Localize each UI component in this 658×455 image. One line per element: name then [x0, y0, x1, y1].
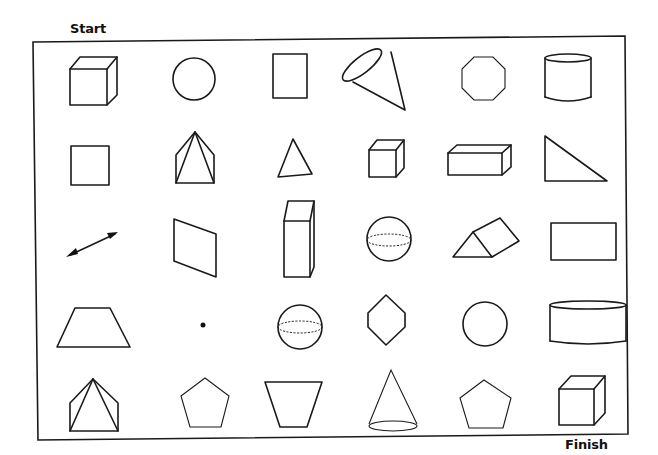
cell-r1-c3-rectangle-icon[interactable]	[273, 54, 307, 98]
cell-r3-c2-parallelogram-icon[interactable]	[174, 219, 216, 277]
cell-r5-c5-pentagon-icon[interactable]	[460, 380, 511, 428]
cell-r2-c3-triangle-icon[interactable]	[278, 139, 312, 177]
cell-r3-c6-rectangle-icon[interactable]	[551, 223, 616, 260]
cell-r2-c1-square-icon[interactable]	[71, 146, 109, 185]
cell-r1-c4-cone-icon[interactable]	[338, 44, 405, 110]
cell-r4-c5-circle-icon[interactable]	[463, 302, 507, 346]
cell-r2-c4-cube-icon[interactable]	[369, 140, 404, 177]
cell-r5-c1-pyramid-icon[interactable]	[70, 379, 118, 431]
cell-r1-c2-circle-icon[interactable]	[173, 58, 215, 100]
cell-r4-c6-cylinder-icon[interactable]	[550, 301, 626, 344]
cell-r2-c5-rectangular-prism-icon[interactable]	[448, 145, 511, 175]
cell-r4-c3-sphere-icon[interactable]	[278, 305, 322, 349]
cell-r3-c4-sphere-icon[interactable]	[367, 217, 411, 261]
maze-frame	[33, 36, 628, 440]
cell-r1-c1-cube-icon[interactable]	[70, 57, 117, 105]
cell-r5-c6-cube-icon[interactable]	[559, 376, 605, 425]
cell-r4-c1-trapezoid-icon[interactable]	[57, 308, 130, 347]
cell-r2-c2-pyramid-icon[interactable]	[176, 132, 214, 183]
cell-r4-c4-hexagon-icon[interactable]	[368, 295, 405, 345]
cell-r5-c4-cone-icon[interactable]	[369, 370, 417, 431]
cell-r1-c6-cylinder-icon[interactable]	[545, 54, 591, 101]
cell-r1-c5-octagon-icon[interactable]	[462, 57, 505, 100]
cell-r4-c2-point-icon[interactable]	[201, 323, 206, 328]
cell-r2-c6-right-triangle-icon[interactable]	[545, 136, 607, 181]
cell-r3-c3-rectangular-prism-icon[interactable]	[284, 201, 314, 277]
cell-r5-c2-pentagon-icon[interactable]	[181, 378, 229, 427]
cell-r3-c1-line-segment-arrow-icon[interactable]	[66, 232, 118, 257]
cell-r3-c5-triangular-prism-icon[interactable]	[453, 218, 519, 257]
cell-r5-c3-trapezoid-icon[interactable]	[265, 382, 322, 427]
shape-maze-board	[0, 0, 658, 455]
